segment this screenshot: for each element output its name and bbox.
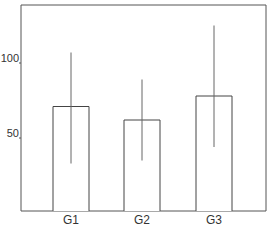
- x-axis-labels: G1G2G3: [63, 213, 222, 227]
- bar-g2: [124, 80, 160, 212]
- bars-group: [53, 26, 232, 212]
- bar-chart: 50100 G1G2G3: [0, 0, 271, 227]
- y-tick-label: 50: [7, 127, 19, 139]
- x-tick-label: G1: [63, 213, 79, 227]
- y-tick-label: 100: [1, 52, 19, 64]
- bar-g1: [53, 53, 89, 212]
- y-axis-ticks: 50100: [1, 52, 21, 139]
- bar-g3: [196, 26, 232, 212]
- x-tick-label: G2: [134, 213, 150, 227]
- x-tick-label: G3: [206, 213, 222, 227]
